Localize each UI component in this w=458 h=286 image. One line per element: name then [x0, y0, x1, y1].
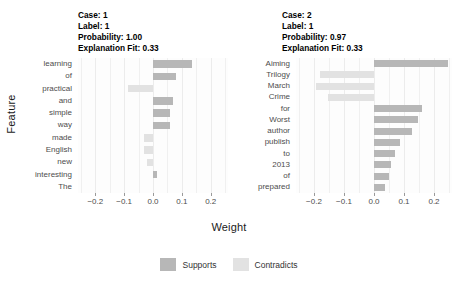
facet-case-line: Case: 1 [78, 10, 159, 21]
plot-panel [296, 58, 452, 193]
bar-row [296, 92, 452, 103]
legend: SupportsContradicts [0, 258, 458, 271]
bar-contradicts [144, 146, 153, 154]
x-axis-tick-label: −0.2 [87, 197, 103, 206]
bar-row [296, 114, 452, 125]
x-axis-tickmark [211, 193, 212, 196]
bar-supports [374, 173, 389, 180]
x-axis-tickmark [404, 193, 405, 196]
bar-row [296, 103, 452, 114]
bar-supports [374, 105, 422, 112]
bar-supports [374, 184, 385, 191]
x-axis-tick-label: −0.2 [306, 197, 322, 206]
x-axis: −0.2−0.10.00.10.2 [78, 193, 228, 215]
bar-row [78, 119, 228, 131]
y-axis-tick-label: simple [22, 107, 74, 119]
y-axis-tick-label: Crime [252, 92, 292, 103]
y-axis-tick-label: of [22, 70, 74, 82]
x-axis-tick-label: 0.0 [368, 197, 379, 206]
bar-contradicts [128, 85, 153, 93]
facet-probability-line: Probability: 1.00 [78, 32, 159, 43]
bar-row [296, 148, 452, 159]
bar-row [296, 182, 452, 193]
y-axis-tick-label: March [252, 81, 292, 92]
legend-item: Supports [160, 258, 216, 271]
bar-row [78, 58, 228, 70]
bar-row [78, 132, 228, 144]
bar-contradicts [144, 134, 153, 142]
bar-row [296, 137, 452, 148]
y-axis-tick-label: publish [252, 137, 292, 148]
lime-explanation-chart: Feature Weight Case: 1 Label: 1 Probabil… [0, 0, 458, 286]
y-axis-tick-label: of [252, 171, 292, 182]
y-axis-title: Feature [5, 84, 17, 144]
bar-contradicts [147, 159, 153, 167]
y-axis-tick-label: learning [22, 58, 74, 70]
y-axis-tick-label: 2013 [252, 159, 292, 170]
x-axis-tick-label: 0.1 [176, 197, 187, 206]
x-axis-tick-label: 0.2 [428, 197, 439, 206]
bar-supports [153, 171, 157, 179]
y-axis-tick-label: English [22, 144, 74, 156]
x-axis-tick-label: 0.2 [205, 197, 216, 206]
bar-row [78, 168, 228, 180]
y-axis-tick-label: and [22, 95, 74, 107]
y-axis-tick-labels: AimingTrilogyMarchCrimeforWorstauthorpub… [252, 58, 292, 193]
bar-row [296, 126, 452, 137]
facet-case-2: Case: 2 Label: 1 Probability: 0.97 Expla… [252, 10, 452, 210]
bar-supports [153, 60, 192, 68]
facet-probability-line: Probability: 0.97 [282, 32, 363, 43]
bar-row [78, 70, 228, 82]
x-axis-tickmark [374, 193, 375, 196]
bar-supports [153, 122, 170, 130]
y-axis-tick-label: interesting [22, 168, 74, 180]
bar-row [78, 107, 228, 119]
legend-item: Contradicts [233, 258, 298, 271]
y-axis-tick-label: new [22, 156, 74, 168]
facet-explanation-fit-line: Explanation Fit: 0.33 [78, 43, 159, 54]
bar-supports [374, 116, 418, 123]
facet-case-line: Case: 2 [282, 10, 363, 21]
bar-contradicts [316, 83, 375, 90]
bar-row [78, 144, 228, 156]
bar-row [78, 156, 228, 168]
y-axis-tick-label: for [252, 103, 292, 114]
x-axis-tickmark [434, 193, 435, 196]
bar-contradicts [328, 94, 375, 101]
plot-panel [78, 58, 228, 193]
x-axis-tickmark [124, 193, 125, 196]
bar-supports [374, 150, 395, 157]
y-axis-tick-label: author [252, 126, 292, 137]
y-axis-tick-label: way [22, 119, 74, 131]
legend-key-swatch [160, 258, 176, 271]
facet-label-line: Label: 1 [78, 21, 159, 32]
bar-supports [153, 109, 170, 117]
x-axis-tick-label: 0.0 [147, 197, 158, 206]
x-axis-tick-label: −0.1 [116, 197, 132, 206]
y-axis-tick-label: to [252, 148, 292, 159]
bar-row [296, 171, 452, 182]
bar-row [296, 159, 452, 170]
x-axis-tickmark [344, 193, 345, 196]
facet-header-case-2: Case: 2 Label: 1 Probability: 0.97 Expla… [282, 10, 363, 54]
bar-row [78, 83, 228, 95]
legend-label: Contradicts [255, 260, 298, 270]
y-axis-tick-label: prepared [252, 182, 292, 193]
bar-row [78, 95, 228, 107]
legend-key-swatch [233, 258, 249, 271]
x-axis-tickmark [182, 193, 183, 196]
x-axis-tickmark [314, 193, 315, 196]
bar-supports [374, 60, 448, 67]
bar-supports [153, 97, 173, 105]
facet-explanation-fit-line: Explanation Fit: 0.33 [282, 43, 363, 54]
x-axis-tick-label: −0.1 [336, 197, 352, 206]
y-axis-tick-label: Aiming [252, 58, 292, 69]
x-axis-title: Weight [0, 221, 458, 233]
x-axis: −0.2−0.10.00.10.2 [296, 193, 452, 215]
bar-row [296, 69, 452, 80]
y-axis-tick-label: made [22, 132, 74, 144]
y-axis-tick-label: Trilogy [252, 69, 292, 80]
y-axis-tick-label: Worst [252, 114, 292, 125]
bar-row [296, 58, 452, 69]
x-axis-tickmark [95, 193, 96, 196]
